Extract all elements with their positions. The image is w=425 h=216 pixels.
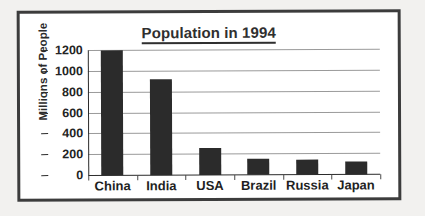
y-axis-tick-label: 0	[76, 169, 83, 182]
y-axis-tick-label: 1200	[55, 44, 83, 57]
scanned-page: Population in 1994 Millions of People 12…	[0, 0, 425, 216]
y-axis-tick-label: 400	[62, 128, 83, 141]
x-axis-label-russia: Russia	[286, 179, 329, 192]
bar-slot	[88, 50, 137, 175]
y-axis-tick-label: 600	[62, 107, 83, 120]
x-axis-label-india: India	[146, 179, 176, 192]
chart-title-text: Population in 1994	[142, 24, 276, 45]
x-axis-category-labels: ChinaIndiaUSABrazilRussiaJapan	[88, 178, 380, 199]
y-axis-tick-mark	[41, 154, 48, 155]
bar-brazil[interactable]	[248, 159, 270, 175]
bar-usa[interactable]	[199, 148, 221, 175]
y-axis-tick-label: 200	[62, 148, 83, 161]
chart-title: Population in 1994	[20, 23, 398, 41]
bar-china[interactable]	[101, 50, 123, 175]
bar-japan[interactable]	[345, 161, 367, 174]
bar-slot	[234, 50, 283, 175]
y-axis-tick-mark	[41, 133, 48, 134]
bar-slot	[282, 50, 331, 175]
plot-area: 120010008006004002000	[88, 49, 380, 175]
bar-russia[interactable]	[296, 159, 318, 174]
y-axis-tick-mark	[41, 50, 48, 51]
y-axis-tick-label: 1000	[55, 65, 83, 78]
x-axis-label-brazil: Brazil	[241, 179, 276, 192]
x-axis-tick-mark	[380, 174, 381, 179]
chart-frame: Population in 1994 Millions of People 12…	[17, 9, 402, 201]
y-axis-tick-mark	[41, 113, 48, 114]
bar-slot	[136, 50, 185, 175]
bar-slot	[185, 50, 234, 175]
y-axis-tick-mark	[41, 92, 48, 93]
x-axis-label-japan: Japan	[337, 178, 375, 191]
bar-slot	[331, 49, 380, 174]
bar-india[interactable]	[150, 79, 172, 175]
y-axis-tick-mark	[41, 175, 48, 176]
y-axis-tick-labels: 120010008006004002000	[41, 50, 83, 175]
x-axis-label-china: China	[95, 179, 131, 192]
bars-layer	[88, 49, 380, 175]
x-axis-label-usa: USA	[196, 179, 224, 192]
y-axis-tick-label: 800	[62, 86, 83, 99]
y-axis-tick-mark	[41, 71, 48, 72]
